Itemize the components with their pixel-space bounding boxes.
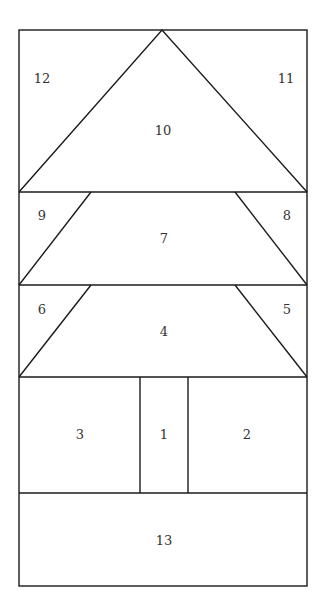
piece-label-13: 13	[156, 533, 173, 548]
trapezoid-4-right-edge	[235, 285, 307, 377]
piece-label-4: 4	[160, 324, 168, 339]
piece-label-6: 6	[38, 302, 46, 317]
piece-label-12: 12	[34, 71, 51, 86]
quilt-diagram: 1 2 3 4 5 6 7 8 9 10 11 12 13	[0, 0, 321, 612]
piece-label-9: 9	[38, 208, 46, 223]
piece-label-11: 11	[278, 71, 295, 86]
piece-label-7: 7	[160, 231, 168, 246]
outer-border	[19, 30, 307, 586]
piece-label-3: 3	[76, 427, 84, 442]
piece-label-2: 2	[243, 427, 251, 442]
trapezoid-7-left-edge	[19, 192, 91, 285]
trapezoid-4-left-edge	[19, 285, 91, 377]
piece-label-5: 5	[283, 302, 291, 317]
trapezoid-7-right-edge	[235, 192, 307, 285]
piece-label-1: 1	[160, 427, 168, 442]
triangle-10-edges	[19, 30, 307, 192]
piece-label-8: 8	[283, 208, 291, 223]
piece-label-10: 10	[155, 123, 172, 138]
